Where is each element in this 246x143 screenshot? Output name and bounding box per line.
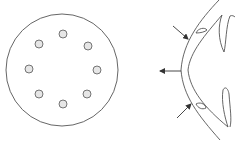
small-dot [35,40,43,48]
upper-inward-arrow-icon [173,26,188,39]
lower-inward-arrow-icon [177,104,191,118]
small-dot [35,90,43,98]
small-dot [83,90,91,98]
small-dot [93,66,101,74]
small-dot [25,65,33,73]
dot-ring [25,30,101,108]
upper-lobe [219,15,235,52]
figure [0,0,246,143]
small-dot [84,42,92,50]
lower-lobe [222,88,230,127]
upper-pocket [196,28,207,33]
diagram-canvas [0,0,246,143]
outer-wall [181,0,220,140]
left-panel [6,14,118,126]
small-dot [59,100,67,108]
small-dot [59,30,67,38]
arrows [160,26,191,118]
right-panel [160,0,235,140]
